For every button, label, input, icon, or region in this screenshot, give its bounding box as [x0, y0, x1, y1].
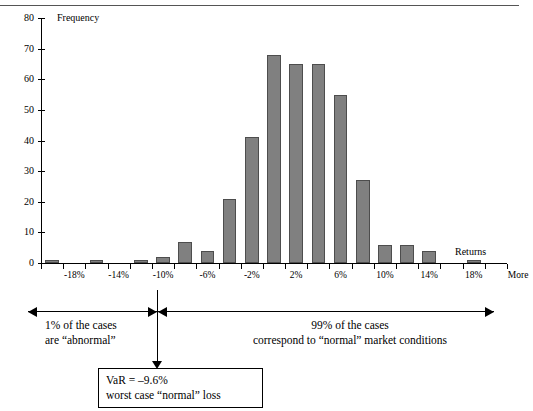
x-axis-tick [485, 264, 486, 269]
x-axis-tick [396, 264, 397, 269]
right-annotation: 99% of the cases correspond to “normal” … [200, 318, 500, 348]
x-axis-tick [41, 264, 42, 269]
bar [134, 260, 148, 263]
x-axis-tick [352, 264, 353, 269]
bar [378, 245, 392, 263]
bar [400, 245, 414, 263]
x-axis-tick [307, 264, 308, 269]
x-axis-tick [130, 264, 131, 269]
y-axis-label: 30 [10, 165, 34, 176]
x-axis-label: -10% [143, 270, 183, 280]
x-axis-tick [152, 264, 153, 269]
x-axis-tick [219, 264, 220, 269]
var-callout-box: VaR = –9.6% worst case “normal” loss [98, 368, 263, 408]
bar [201, 251, 215, 263]
var-vertical-line [157, 290, 158, 365]
x-axis-label: -18% [54, 270, 94, 280]
y-axis-label: 20 [10, 196, 34, 207]
y-axis-tick [38, 232, 45, 233]
bar [289, 64, 303, 263]
bar [223, 199, 237, 263]
right-annotation-line1: 99% of the cases [200, 318, 500, 333]
x-axis-label: 18% [454, 270, 494, 280]
left-annotation-line1: 1% of the cases [45, 318, 117, 333]
x-axis-tick [285, 264, 286, 269]
y-axis-label: 10 [10, 226, 34, 237]
x-axis-label: 2% [276, 270, 316, 280]
y-axis-label: 40 [10, 135, 34, 146]
y-axis-label: 80 [10, 12, 34, 23]
x-axis-label: -6% [187, 270, 227, 280]
x-axis-tick [108, 264, 109, 269]
x-axis-tick [507, 264, 508, 269]
var-value-line: VaR = –9.6% [106, 373, 255, 388]
x-axis-tick [418, 264, 419, 269]
bar [156, 257, 170, 263]
x-axis-tick [263, 264, 264, 269]
bar [334, 95, 348, 263]
arrow-right-icon [485, 307, 494, 317]
arrow-left-inner-icon [158, 307, 167, 317]
x-axis-label: 6% [321, 270, 361, 280]
y-axis-tick [38, 49, 45, 50]
arrow-right-inner-icon [148, 307, 157, 317]
x-axis-label: -2% [232, 270, 272, 280]
bar [45, 260, 59, 263]
y-axis-tick [38, 79, 45, 80]
left-annotation: 1% of the cases are “abnormal” [45, 318, 117, 348]
x-axis-tick [241, 264, 242, 269]
x-axis-tick [440, 264, 441, 269]
x-axis-caption: Returns [455, 246, 486, 257]
bar [178, 242, 192, 263]
x-axis-tick [329, 264, 330, 269]
bar [467, 260, 481, 263]
x-axis-tick [85, 264, 86, 269]
bar [90, 260, 104, 263]
y-axis-tick [38, 18, 45, 19]
cases-split-line [28, 311, 494, 312]
y-axis-tick [38, 141, 45, 142]
bar [267, 55, 281, 263]
bar [312, 64, 326, 263]
left-annotation-line2: are “abnormal” [45, 333, 117, 348]
bar [422, 251, 436, 263]
y-axis-label: 50 [10, 104, 34, 115]
x-axis-line [41, 263, 507, 264]
y-axis-label: 70 [10, 43, 34, 54]
y-axis-tick [38, 171, 45, 172]
arrow-left-icon [28, 307, 37, 317]
y-axis-tick [38, 202, 45, 203]
y-axis-tick [38, 110, 45, 111]
x-axis-tick [196, 264, 197, 269]
x-axis-label: 10% [365, 270, 405, 280]
var-description-line: worst case “normal” loss [106, 388, 255, 403]
y-axis-label: 60 [10, 73, 34, 84]
y-axis-label: 0 [10, 257, 34, 268]
x-axis-label: 14% [409, 270, 449, 280]
bar [245, 137, 259, 263]
x-axis-label: More [498, 270, 533, 280]
x-axis-tick [463, 264, 464, 269]
x-axis-tick [63, 264, 64, 269]
y-axis-caption: Frequency [57, 12, 99, 23]
x-axis-tick [374, 264, 375, 269]
bar [356, 180, 370, 263]
right-annotation-line2: correspond to “normal” market conditions [200, 333, 500, 348]
x-axis-label: -14% [99, 270, 139, 280]
x-axis-tick [174, 264, 175, 269]
